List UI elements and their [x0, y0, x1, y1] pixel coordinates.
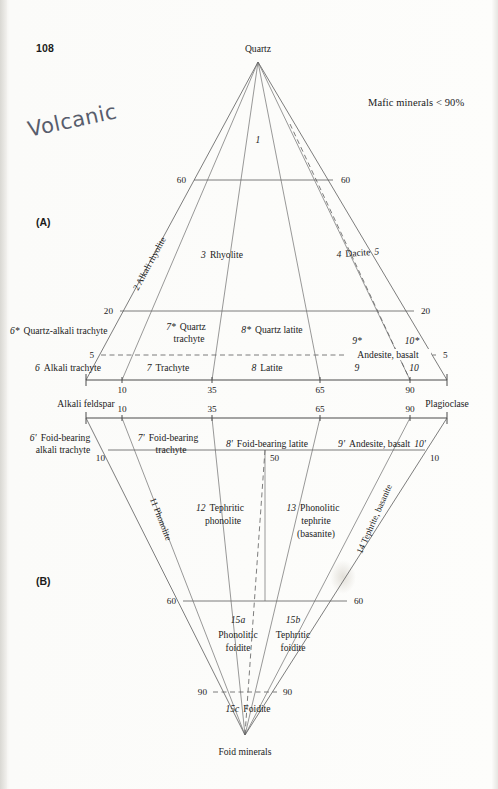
field-7-number: 7 [147, 362, 153, 373]
field-6-prime-number: 6' [30, 432, 38, 443]
field-8-name: Latite [260, 362, 282, 373]
divider-q-35 [212, 62, 258, 380]
field-13-line3: (basanite) [297, 528, 335, 540]
field-15c-number: 15c [225, 703, 240, 714]
field-4-5-group: 4Dacite5 [336, 246, 380, 260]
field-10-label: 10 [409, 362, 419, 373]
tick-label-q60-left: 60 [177, 175, 187, 185]
field-12-label: 12Tephritic [196, 502, 244, 513]
field-15a-number: 15a [231, 614, 246, 625]
field-8-star-name: Quartz latite [255, 324, 303, 335]
tick-label-ap2-35: 35 [207, 404, 217, 414]
field-7-name: Trachyte [156, 362, 190, 373]
field-15c-label: 15cFoidite [225, 703, 270, 714]
field-7-prime-line1: Foid-bearing [149, 432, 199, 443]
field-6-star-number: 6* [10, 325, 20, 336]
tick-label-f60-left: 60 [167, 596, 177, 606]
field-15a-line2: foidite [225, 642, 250, 653]
tick-label-f90-left: 90 [198, 687, 208, 697]
edge-q-a [86, 62, 258, 380]
field-9-prime-label: 9'Andesite, basalt10' [338, 438, 427, 449]
field-7-star-label: 7*Quartz [166, 321, 206, 332]
field-11-group: 11 Phonolite [148, 496, 174, 542]
field-6-label: 6Alkali trachyte [35, 362, 101, 373]
field-5-number: 5 [374, 246, 380, 257]
field-7-prime-number: 7' [138, 432, 146, 443]
field-4-name: Dacite [345, 246, 371, 259]
tick-label-ap2-90: 90 [405, 404, 415, 414]
tick-label-f50: 50 [270, 453, 280, 463]
tick-label-f10-left: 10 [96, 453, 106, 463]
tick-label-ap-35: 35 [207, 385, 217, 395]
field-15b-line1: Tephritic [276, 629, 311, 640]
field-11-label: 11 Phonolite [148, 496, 174, 542]
scanned-page: 108 Volcanic (A) (B) Mafic minerals < 90… [0, 0, 498, 789]
tick-label-f10-right: 10 [430, 453, 440, 463]
field-6-star-name: Quartz-alkali trachyte [24, 325, 108, 336]
tick-label-q20-left: 20 [104, 306, 114, 316]
tick-label-ap2-10: 10 [117, 404, 127, 414]
apex-label-quartz: Quartz [245, 43, 271, 54]
field-9-label: 9 [355, 362, 360, 373]
field-8-prime-number: 8' [226, 438, 234, 449]
edge-p-f [245, 418, 447, 735]
field-15b-number: 15b [286, 614, 301, 625]
field-7-star-line2: trachyte [174, 333, 205, 344]
field-15c-name: Foidite [243, 703, 270, 714]
field-3-number: 3 [200, 249, 206, 260]
divider-f-90 [245, 418, 410, 735]
tick-label-ap-10: 10 [117, 385, 127, 395]
field-2-group: 2 Alkali rhyolite [131, 235, 168, 292]
field-13-line1: Phonolitic [300, 502, 339, 513]
andesite-basalt-star-label: Andesite, basalt [357, 349, 419, 360]
tick-label-q60-right: 60 [341, 175, 351, 185]
field-3-label: 3Rhyolite [200, 249, 243, 260]
field-6-prime-label: 6'Foid-bearing [30, 432, 91, 443]
field-13-label: 13Phonolitic [286, 502, 339, 513]
field-13-number: 13 [286, 502, 296, 513]
field-15a-line1: Phonolitic [218, 629, 257, 640]
tick-label-q20-right: 20 [421, 306, 431, 316]
tick-label-f60-right: 60 [354, 596, 364, 606]
field-8-prime-name: Foid-bearing latite [237, 438, 308, 449]
qapf-diagram: Quartz 60 60 20 20 5 5 1 2 Alkali rhyoli… [0, 0, 498, 789]
field-10-star-label: 10* [405, 335, 420, 346]
field-6-prime-line2: alkali trachyte [36, 444, 91, 455]
field-12-line2: phonolite [205, 515, 241, 526]
field-7-prime-label: 7'Foid-bearing [138, 432, 199, 443]
field-7-star-number: 7* [166, 321, 176, 332]
field-15b-line2: foidite [280, 642, 305, 653]
field-6-number: 6 [35, 362, 40, 373]
field-7-star-line1: Quartz [180, 321, 206, 332]
field-8-label: 8Latite [251, 362, 282, 373]
field-3-name: Rhyolite [210, 249, 243, 260]
tick-label-q5-right: 5 [443, 350, 448, 360]
divider-f-10 [122, 418, 245, 735]
field-9-prime-name: Andesite, basalt [349, 438, 411, 449]
tick-label-q5-left: 5 [89, 350, 94, 360]
apex-label-foid-minerals: Foid minerals [218, 746, 271, 757]
tick-label-ap2-65: 65 [315, 404, 325, 414]
field-12-number: 12 [196, 502, 206, 513]
field-13-line2: tephrite [301, 515, 330, 526]
field-7-prime-line2: trachyte [156, 444, 187, 455]
field-14-label: 14 Tephrite, basanite [354, 483, 394, 556]
field-8-star-number: 8* [241, 324, 251, 335]
field-14-group: 14 Tephrite, basanite [354, 483, 394, 556]
divider-f-35 [212, 418, 245, 735]
tick-label-ap-90: 90 [405, 385, 415, 395]
tick-label-f90-right: 90 [283, 687, 293, 697]
field-2-label: 2 Alkali rhyolite [131, 235, 168, 292]
field-12-line1: Tephritic [210, 502, 245, 513]
field-8-star-label: 8*Quartz latite [241, 324, 302, 335]
apex-label-alkali-feldspar: Alkali feldspar [57, 398, 115, 409]
tick-label-ap-65: 65 [315, 385, 325, 395]
field-6-name: Alkali trachyte [44, 362, 101, 373]
field-6-star-label: 6*Quartz-alkali trachyte [10, 325, 108, 336]
field-7-label: 7Trachyte [147, 362, 190, 373]
edge-a-f [86, 418, 245, 735]
apex-label-plagioclase: Plagioclase [425, 398, 469, 409]
field-9-star-label: 9* [352, 335, 362, 346]
field-4-number: 4 [336, 248, 342, 259]
field-1-label: 1 [256, 134, 261, 145]
